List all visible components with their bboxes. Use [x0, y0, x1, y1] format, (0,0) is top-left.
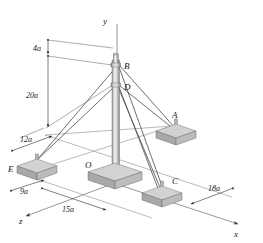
mast-shaft	[112, 60, 120, 180]
anchor-block-a	[156, 119, 196, 145]
ext-line-mid	[48, 56, 112, 65]
base-block-o	[88, 163, 142, 189]
dimension-9a-label: 9a	[20, 187, 28, 196]
anchor-block-e	[17, 154, 57, 180]
mast-cap	[113, 53, 118, 55]
vertical-dimension-chain	[46, 40, 113, 128]
y-axis-label: y	[102, 16, 107, 26]
collar-d	[111, 83, 121, 87]
point-b-label: B	[124, 61, 130, 71]
dimension-15a-label: 15a	[62, 205, 74, 214]
dimension-18a-label: 18a	[208, 184, 220, 193]
wire-b-to-a	[120, 66, 176, 129]
axes-group	[26, 24, 238, 224]
dimension-4a-label: 4a	[33, 44, 41, 53]
dimension-12a-label: 12a	[20, 135, 32, 144]
point-e-label: E	[7, 164, 14, 174]
mast-group	[111, 53, 121, 180]
point-d-label: D	[123, 82, 131, 92]
ext-line-top	[48, 40, 113, 48]
wire-d-to-a	[120, 86, 175, 130]
point-a-label: A	[171, 110, 178, 120]
point-c-label: C	[172, 176, 179, 186]
dimension-9a-group	[13, 180, 44, 190]
ext-line-bottom	[46, 86, 111, 128]
point-o-label: O	[85, 160, 92, 170]
statics-diagram: y x z A B C D E O 4a 20a 12a 9a 15a 18a	[0, 0, 263, 243]
collar-b	[111, 63, 121, 67]
z-axis-label: z	[18, 216, 23, 226]
x-axis-label: x	[233, 229, 238, 239]
mast-top-section	[113, 54, 118, 64]
dimension-20a-label: 20a	[26, 91, 38, 100]
figure-container: y x z A B C D E O 4a 20a 12a 9a 15a 18a	[0, 0, 263, 243]
dim-line-9a	[13, 180, 44, 190]
